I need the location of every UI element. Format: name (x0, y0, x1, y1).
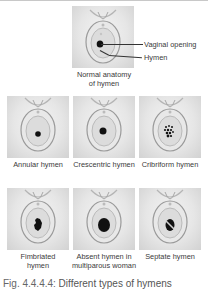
septate-hymen-icon (139, 188, 201, 250)
callout-hymen: Hymen (144, 53, 167, 62)
vulva-illustration-icon (72, 6, 134, 68)
main-title-line-2: of hymen (62, 79, 146, 88)
label-absent-line-1: Absent hymen in (64, 252, 144, 261)
main-title-line-1: Normal anatomy (62, 70, 146, 79)
illustration-absent-hymen (73, 188, 135, 250)
top-border-line (0, 0, 208, 1)
illustration-normal-anatomy (72, 6, 134, 68)
crescentric-hymen-icon (73, 96, 135, 158)
label-crescentric-hymen: Crescentric hymen (68, 160, 140, 169)
label-annular-hymen: Annular hymen (2, 160, 74, 169)
illustration-crescentric-hymen (73, 96, 135, 158)
main-title: Normal anatomy of hymen (62, 70, 146, 88)
callout-vaginal-opening: Vaginal opening (144, 40, 196, 49)
leader-line-vaginal-opening (101, 44, 143, 45)
figure-caption-text: Different types of hymens (59, 278, 172, 289)
figure-caption: Fig. 4.4.4.4: Different types of hymens (3, 278, 172, 289)
label-cribriform-hymen: Cribriform hymen (134, 160, 206, 169)
illustration-fimbriated-hymen (7, 188, 69, 250)
illustration-annular-hymen (7, 96, 69, 158)
illustration-cribriform-hymen (139, 96, 201, 158)
label-absent-hymen: Absent hymen in multiparous woman (64, 252, 144, 270)
illustration-septate-hymen (139, 188, 201, 250)
annular-hymen-icon (7, 96, 69, 158)
label-septate-hymen: Septate hymen (134, 252, 206, 261)
absent-hymen-icon (73, 188, 135, 250)
cribriform-hymen-icon (139, 96, 201, 158)
fimbriated-hymen-icon (7, 188, 69, 250)
label-absent-line-2: multiparous woman (64, 261, 144, 270)
figure-number: Fig. 4.4.4.4: (3, 278, 56, 289)
